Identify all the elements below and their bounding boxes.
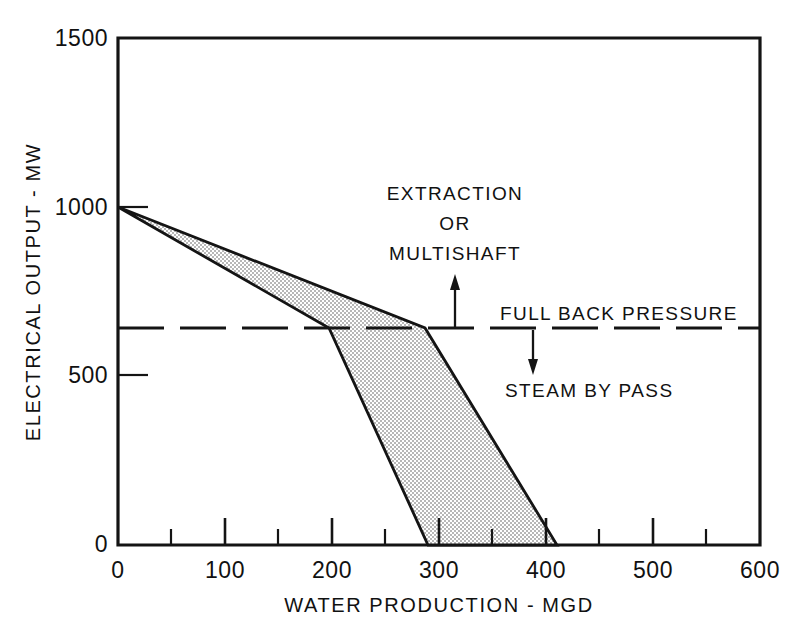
- y-axis-title: ELECTRICAL OUTPUT - MW: [22, 143, 44, 442]
- down-arrow-icon: [528, 359, 538, 375]
- x-axis-title: WATER PRODUCTION - MGD: [284, 594, 594, 616]
- figure-container: 1500 1000 500 0 0 100 200 300 400 500 60…: [0, 0, 798, 633]
- annotation-steam-by-pass: STEAM BY PASS: [505, 330, 674, 401]
- extraction-label-line1: EXTRACTION: [387, 183, 523, 204]
- y-tick-label-0: 0: [95, 531, 108, 557]
- steam-by-pass-label: STEAM BY PASS: [505, 380, 674, 401]
- y-tick-label-1500: 1500: [55, 25, 108, 51]
- x-tick-label-300: 300: [419, 557, 459, 583]
- up-arrow-icon: [450, 274, 460, 290]
- x-tick-label-400: 400: [526, 557, 566, 583]
- x-tick-label-200: 200: [312, 557, 352, 583]
- x-tick-label-500: 500: [633, 557, 673, 583]
- y-axis-ticks: [118, 207, 148, 375]
- x-axis-major-ticks: [225, 518, 653, 545]
- y-tick-label-1000: 1000: [55, 194, 108, 220]
- full-back-pressure-label: FULL BACK PRESSURE: [500, 303, 738, 324]
- x-tick-label-100: 100: [205, 557, 245, 583]
- extraction-label-line3: MULTISHAFT: [389, 243, 521, 264]
- chart-canvas: 1500 1000 500 0 0 100 200 300 400 500 60…: [0, 0, 798, 633]
- extraction-label-line2: OR: [439, 213, 470, 234]
- x-tick-label-600: 600: [740, 557, 780, 583]
- x-tick-label-0: 0: [111, 557, 124, 583]
- y-tick-label-500: 500: [68, 362, 108, 388]
